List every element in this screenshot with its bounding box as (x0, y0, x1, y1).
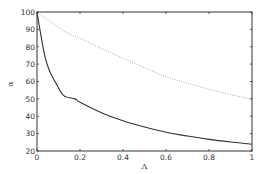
solid-series-line (37, 12, 252, 144)
dotted-series-line (37, 12, 252, 99)
x-axis-label: Λ (141, 162, 148, 171)
line-chart: 00.20.40.60.81 2030405060708090100 Λ α (0, 0, 267, 174)
y-tick-label: 20 (25, 147, 35, 156)
x-tick-label: 0.6 (160, 153, 172, 162)
x-tick-label: 0 (35, 153, 40, 162)
y-tick-label: 50 (25, 95, 35, 104)
y-tick-label: 80 (25, 43, 35, 52)
y-tick-label: 30 (25, 129, 35, 138)
x-axis-ticks: 00.20.40.60.81 (35, 12, 255, 162)
y-tick-label: 40 (25, 112, 35, 121)
y-axis-label: α (6, 81, 15, 87)
x-tick-label: 0.4 (117, 153, 129, 162)
x-tick-label: 0.8 (203, 153, 215, 162)
y-tick-label: 90 (25, 25, 35, 34)
axes-frame (37, 12, 252, 151)
series-layer (37, 12, 252, 144)
y-tick-label: 60 (25, 77, 35, 86)
x-tick-label: 1 (250, 153, 255, 162)
y-tick-label: 100 (21, 8, 36, 17)
y-tick-label: 70 (25, 60, 35, 69)
x-tick-label: 0.2 (74, 153, 86, 162)
